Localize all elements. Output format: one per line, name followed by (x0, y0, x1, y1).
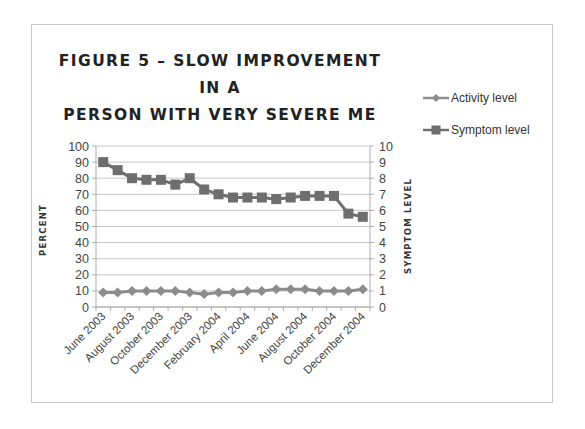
data-point-diamond (300, 284, 310, 294)
data-point-diamond (315, 286, 325, 296)
y-tick-label-left: 20 (75, 268, 89, 282)
data-point-diamond (185, 288, 195, 298)
data-point-square (170, 180, 180, 190)
y-tick-label-right: 8 (379, 172, 386, 186)
y-tick-label-right: 6 (379, 204, 386, 218)
y-tick-label-right: 7 (379, 188, 386, 202)
data-point-square (141, 175, 151, 185)
y-tick-label-left: 60 (75, 204, 89, 218)
y-tick-label-right: 2 (379, 268, 386, 282)
data-point-square (185, 173, 195, 183)
y-tick-label-right: 0 (379, 301, 386, 315)
series-line-symptom-level (103, 162, 363, 217)
data-point-diamond (271, 284, 281, 294)
y-tick-label-right: 5 (379, 220, 386, 234)
y-tick-label-left: 30 (75, 252, 89, 266)
plot-area: 0102030405060708090100012345678910June 2… (0, 0, 585, 429)
data-point-square (228, 193, 238, 203)
data-point-diamond (156, 286, 166, 296)
data-point-square (329, 191, 339, 201)
data-point-square (214, 189, 224, 199)
data-point-square (199, 184, 209, 194)
y-tick-label-left: 70 (75, 188, 89, 202)
y-tick-label-right: 1 (379, 284, 386, 298)
data-point-square (286, 193, 296, 203)
data-point-square (358, 212, 368, 222)
data-point-diamond (343, 286, 353, 296)
data-point-diamond (170, 286, 180, 296)
data-point-square (113, 165, 123, 175)
data-point-square (98, 157, 108, 167)
data-point-square (156, 175, 166, 185)
y-tick-label-left: 40 (75, 236, 89, 250)
data-point-diamond (228, 288, 238, 298)
data-point-square (343, 209, 353, 219)
data-point-square (271, 194, 281, 204)
y-tick-label-right: 4 (379, 236, 386, 250)
data-point-diamond (286, 284, 296, 294)
y-tick-label-left: 50 (75, 220, 89, 234)
y-tick-label-right: 3 (379, 252, 386, 266)
data-point-diamond (214, 288, 224, 298)
y-tick-label-right: 10 (379, 140, 393, 154)
data-point-diamond (127, 286, 137, 296)
data-point-square (242, 193, 252, 203)
data-point-diamond (358, 284, 368, 294)
y-tick-label-left: 10 (75, 284, 89, 298)
data-point-square (127, 173, 137, 183)
data-point-square (257, 193, 267, 203)
y-tick-label-left: 0 (82, 301, 89, 315)
data-point-diamond (113, 288, 123, 298)
data-point-diamond (242, 286, 252, 296)
data-point-square (300, 191, 310, 201)
y-tick-label-left: 90 (75, 156, 89, 170)
data-point-diamond (98, 288, 108, 298)
y-tick-label-left: 80 (75, 172, 89, 186)
y-tick-label-right: 9 (379, 156, 386, 170)
data-point-square (315, 191, 325, 201)
data-point-diamond (329, 286, 339, 296)
data-point-diamond (257, 286, 267, 296)
data-point-diamond (141, 286, 151, 296)
y-tick-label-left: 100 (68, 140, 89, 154)
